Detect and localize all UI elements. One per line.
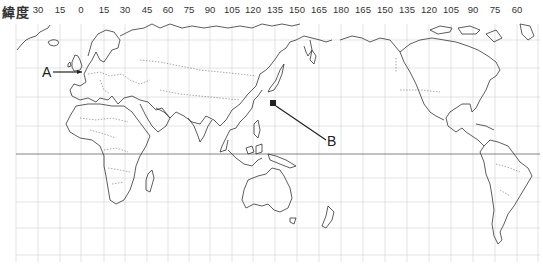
- world-map: [0, 0, 543, 268]
- country-borders: [80, 58, 520, 196]
- marker-b-arrow: [276, 106, 326, 140]
- coastlines: [17, 24, 534, 244]
- marker-b-target: [270, 100, 276, 106]
- graticule: [16, 24, 540, 262]
- marker-b-label: B: [327, 133, 336, 149]
- marker-a-label: A: [42, 64, 51, 80]
